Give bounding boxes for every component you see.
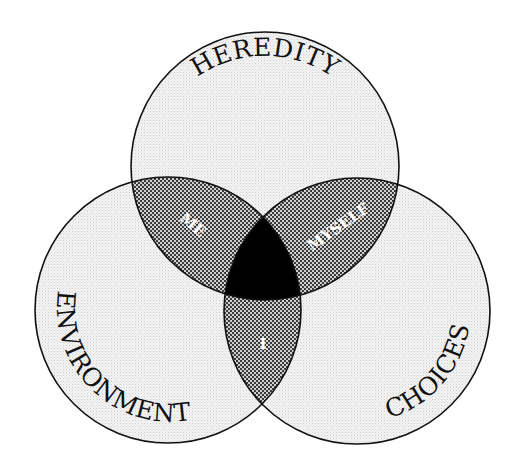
venn-diagram: HEREDITY ENVIRONMENT CHOICES ME MYSELF I bbox=[0, 0, 513, 472]
label-i: I bbox=[259, 335, 266, 353]
